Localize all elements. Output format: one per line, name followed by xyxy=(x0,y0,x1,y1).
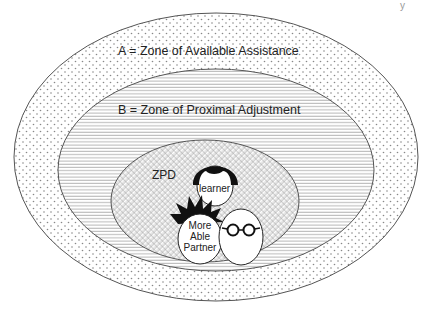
zpd-label: ZPD xyxy=(152,168,176,182)
zone-b-label: B = Zone of Proximal Adjustment xyxy=(118,103,300,117)
partner-label-line: Partner xyxy=(179,242,221,253)
partner-label-line: More xyxy=(179,220,221,231)
zone-a-label: A = Zone of Available Assistance xyxy=(118,44,299,58)
learner-label: learner xyxy=(199,183,230,194)
page-mark: y xyxy=(400,0,405,11)
partner-label: More Able Partner xyxy=(179,220,221,253)
partner-label-line: Able xyxy=(179,231,221,242)
glasses-figure xyxy=(219,209,263,265)
